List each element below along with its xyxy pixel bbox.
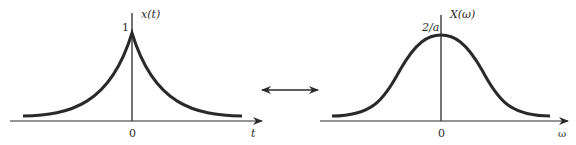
- left-function-label: x(t): [141, 8, 160, 21]
- right-plot: X(ω) 2/a 0 ω: [320, 8, 568, 140]
- left-origin-label: 0: [129, 127, 136, 140]
- left-axis-label: t: [251, 127, 256, 140]
- right-function-label: X(ω): [449, 8, 475, 21]
- right-axis-label: ω: [558, 128, 566, 139]
- fourier-pair-diagram: x(t) 1 0 t X(ω) 2/a 0 ω: [0, 0, 576, 145]
- right-peak-label: 2/a: [421, 21, 439, 34]
- right-origin-label: 0: [438, 127, 445, 140]
- left-plot: x(t) 1 0 t: [10, 8, 262, 140]
- left-peak-label: 1: [122, 21, 129, 34]
